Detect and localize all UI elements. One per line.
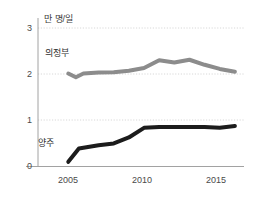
line-chart: 만 명/일 3 2 1 0 2005 2010 2015 의정부 양주: [0, 0, 254, 199]
y-tick-label-3: 3: [16, 24, 32, 33]
unit-label: 만 명/일: [44, 15, 73, 24]
x-tick-label-2010: 2010: [122, 176, 162, 185]
x-tick-label-2005: 2005: [48, 176, 88, 185]
chart-plot-area: [0, 0, 254, 199]
y-tick-label-1: 1: [16, 116, 32, 125]
series-line-yangju: [68, 126, 235, 162]
y-tick-label-2: 2: [16, 70, 32, 79]
series-label-uijeongbu: 의정부: [45, 49, 69, 58]
x-tick-label-2015: 2015: [196, 176, 236, 185]
series-line-uijeongbu: [68, 60, 235, 77]
y-tick-label-0: 0: [16, 162, 32, 171]
series-label-yangju: 양주: [38, 139, 54, 148]
